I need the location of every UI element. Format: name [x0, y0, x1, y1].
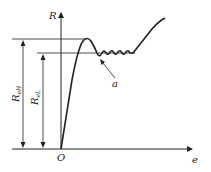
point-a-pointer [102, 62, 115, 78]
upper-yield-label: ReH [10, 85, 22, 103]
stress-strain-diagram: R e O a ReH ReL [0, 0, 211, 172]
origin-label: O [57, 152, 65, 163]
point-a-label: a [112, 78, 118, 89]
y-axis-label: R [48, 10, 57, 21]
x-axis-label: e [192, 154, 198, 165]
lower-yield-label: ReL [29, 90, 41, 106]
